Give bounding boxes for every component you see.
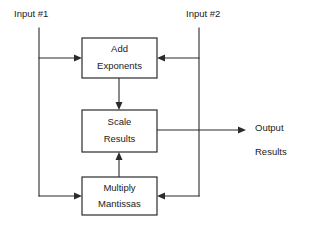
input-2-label: Input #2 [186,8,220,19]
scale-results-label-line2: Results [104,133,136,144]
multiply-mantissas-label-line2: Mantissas [98,198,141,209]
arrowhead-input-2-to-multiply-mantissas [157,193,165,200]
block-scale-results[interactable]: Scale Results [82,110,157,152]
arrowhead-output [238,127,246,134]
arrowhead-add-exponents-to-scale-results [116,102,123,110]
add-exponents-label-line2: Exponents [97,60,142,71]
block-add-exponents[interactable]: Add Exponents [82,38,157,78]
arrowhead-input-1-to-add-exponents [74,55,82,62]
block-multiply-mantissas[interactable]: Multiply Mantissas [82,177,157,215]
arrowhead-input-2-to-add-exponents [157,55,165,62]
input-1-label: Input #1 [14,8,48,19]
arrowhead-input-1-to-multiply-mantissas [74,193,82,200]
add-exponents-label-line1: Add [111,43,128,54]
block-diagram: Add Exponents Scale Results Multiply Man… [0,0,310,232]
output-label-line1: Output [255,122,284,133]
arrowhead-multiply-mantissas-to-scale-results [116,152,123,160]
output-label-line2: Results [255,146,287,157]
scale-results-label-line1: Scale [108,116,132,127]
multiply-mantissas-label-line1: Multiply [103,182,135,193]
diagram-canvas: Add Exponents Scale Results Multiply Man… [0,0,310,232]
